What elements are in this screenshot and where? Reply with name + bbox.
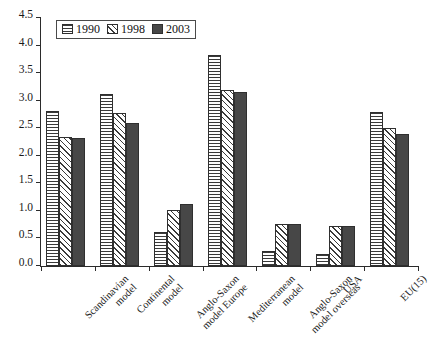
y-tick-mark (36, 182, 40, 183)
bar-group (154, 18, 193, 266)
y-tick-label: 0.5 (19, 229, 33, 240)
y-tick-label: 3.0 (19, 92, 33, 103)
legend-swatch (152, 24, 163, 34)
bar (180, 204, 193, 266)
bar (46, 111, 59, 266)
legend-entry: 1998 (107, 23, 145, 35)
y-tick-mark (36, 45, 40, 46)
bar-group (100, 18, 139, 266)
x-category-label: Anglo-Saxonmodel Europe (191, 273, 249, 331)
y-tick-label: 1.0 (19, 202, 33, 213)
y-tick-mark (36, 155, 40, 156)
x-tick-mark (95, 267, 96, 271)
x-tick-mark (41, 267, 42, 271)
y-tick-mark (36, 127, 40, 128)
bar (208, 55, 221, 266)
bar (126, 123, 139, 266)
y-tick-label: 2.5 (19, 119, 33, 130)
y-tick-label: 4.5 (19, 9, 33, 20)
x-category-label: Scandinavianmodel (82, 273, 138, 329)
bar (154, 232, 167, 266)
bar (113, 113, 126, 266)
bar (396, 134, 409, 266)
y-tick-mark (36, 237, 40, 238)
bar (329, 226, 342, 266)
bar (275, 224, 288, 266)
x-tick-mark (418, 267, 419, 271)
y-tick-mark (36, 17, 40, 18)
x-category-label-line: EU(15) (398, 273, 428, 303)
x-category-label: EU(15) (398, 273, 428, 303)
bar-chart: 4.54.03.53.02.52.01.51.00.50.0 Scandinav… (0, 0, 430, 341)
y-tick-label: 1.5 (19, 174, 33, 185)
legend-label: 1998 (121, 23, 145, 35)
x-tick-mark (203, 267, 204, 271)
y-tick-label: 0.0 (19, 257, 33, 268)
bar (342, 226, 355, 266)
bar (234, 92, 247, 266)
bar-group (208, 18, 247, 266)
legend-entry: 1990 (62, 23, 100, 35)
bar (316, 254, 329, 266)
x-tick-mark (310, 267, 311, 271)
plot-area (41, 18, 418, 266)
bar (383, 128, 396, 266)
bar (370, 112, 383, 266)
bar (167, 210, 180, 266)
bar (221, 90, 234, 266)
y-tick-mark (36, 72, 40, 73)
bar (288, 224, 301, 266)
x-category-label: Mediterraneanmodel (245, 273, 305, 333)
x-tick-mark (364, 267, 365, 271)
y-tick-label: 2.0 (19, 147, 33, 158)
x-axis-line (40, 266, 419, 267)
y-tick-mark (36, 210, 40, 211)
chart-legend: 199019982003 (56, 20, 196, 39)
bar (59, 137, 72, 267)
legend-label: 2003 (166, 23, 190, 35)
bar-group (316, 18, 355, 266)
bar-group (370, 18, 409, 266)
y-tick-mark (36, 100, 40, 101)
bar (72, 138, 85, 266)
x-tick-mark (149, 267, 150, 271)
bar (100, 94, 113, 266)
bar-group (46, 18, 85, 266)
legend-label: 1990 (76, 23, 100, 35)
y-tick-mark (36, 265, 40, 266)
legend-swatch (62, 24, 73, 34)
x-category-label: Continentalmodel (134, 273, 185, 324)
y-tick-label: 4.0 (19, 37, 33, 48)
bar (262, 251, 275, 266)
legend-swatch (107, 24, 118, 34)
bar-group (262, 18, 301, 266)
x-tick-mark (256, 267, 257, 271)
y-tick-label: 3.5 (19, 64, 33, 75)
legend-entry: 2003 (152, 23, 190, 35)
